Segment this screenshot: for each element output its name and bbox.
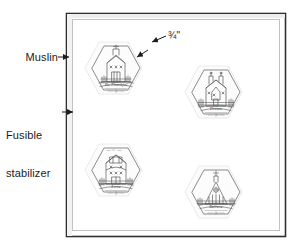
fusible-stabilizer-label-line1: Fusible — [6, 129, 68, 142]
quilting-diagram: Be Thankful — [0, 0, 292, 249]
block-caption-dream: Dream — [209, 106, 223, 111]
muslin-label: Muslin — [18, 51, 58, 64]
spacing-measure-label: ¾" — [168, 30, 180, 43]
block-caption-love: Love — [110, 184, 121, 189]
block-caption-believe: Believe — [209, 204, 223, 209]
fusible-stabilizer-label: Fusible stabilizer — [6, 104, 68, 204]
fusible-stabilizer-label-line2: stabilizer — [6, 167, 68, 180]
block-caption-be-thankful: Be Thankful — [105, 82, 128, 87]
